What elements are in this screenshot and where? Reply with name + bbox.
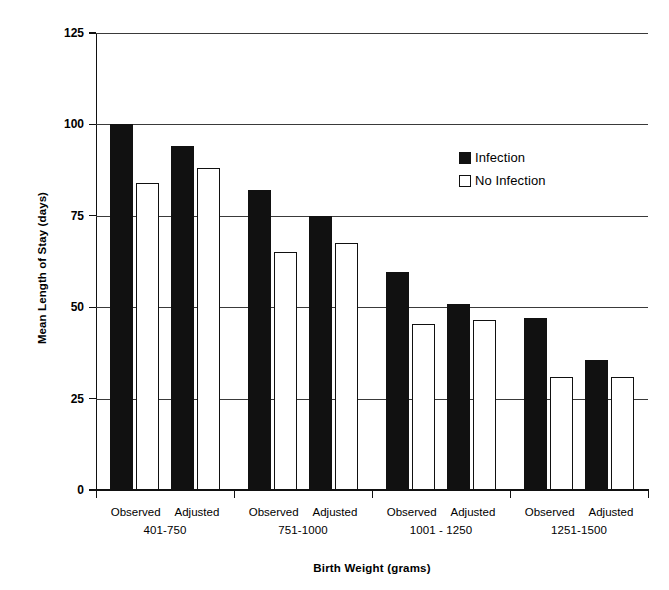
legend-label: No Infection	[475, 173, 546, 188]
legend-item-infection: Infection	[459, 146, 546, 169]
x-subcategory-label-adjusted: Adjusted	[313, 504, 358, 521]
legend: InfectionNo Infection	[459, 146, 546, 192]
x-group-tick-3	[510, 490, 511, 498]
bar-no-infection-adjusted-1251-1500	[611, 377, 634, 490]
bar-no-infection-observed-1001-1250	[412, 324, 435, 490]
bar-infection-observed-401-750	[110, 124, 133, 490]
x-subcategory-label-observed: Observed	[111, 504, 161, 521]
x-subcategory-label-adjusted: Adjusted	[451, 504, 496, 521]
x-group-tick-1	[234, 490, 235, 498]
x-group-tick-0	[96, 490, 97, 498]
bar-no-infection-observed-1251-1500	[550, 377, 573, 490]
bar-no-infection-observed-401-750	[136, 183, 159, 490]
bar-infection-adjusted-1251-1500	[585, 360, 608, 490]
x-group-label-1251-1500: ObservedAdjusted1251-1500	[510, 504, 648, 538]
x-subcategory-label-observed: Observed	[525, 504, 575, 521]
y-tick-label-75: 75	[40, 210, 84, 222]
bar-no-infection-adjusted-751-1000	[335, 243, 358, 490]
x-subcategory-label-observed: Observed	[249, 504, 299, 521]
y-tick-label-0: 0	[40, 484, 84, 496]
y-tick-mark-75	[89, 215, 96, 216]
filled-black-square-icon	[459, 152, 471, 164]
y-tick-mark-0	[89, 489, 96, 490]
bar-infection-adjusted-751-1000	[309, 216, 332, 490]
x-subcategory-label-adjusted: Adjusted	[175, 504, 220, 521]
bar-infection-observed-1251-1500	[524, 318, 547, 490]
x-group-label-401-750: ObservedAdjusted401-750	[96, 504, 234, 538]
bar-infection-observed-1001-1250	[386, 272, 409, 490]
y-tick-label-100: 100	[40, 118, 84, 130]
x-range-label: 1001 - 1250	[372, 522, 510, 539]
y-tick-label-25: 25	[40, 393, 84, 405]
bar-infection-adjusted-401-750	[171, 146, 194, 490]
y-tick-label-50: 50	[40, 301, 84, 313]
y-tick-mark-100	[89, 124, 96, 125]
y-tick-mark-125	[89, 32, 96, 33]
x-group-tick-2	[372, 490, 373, 498]
x-subcategory-label-adjusted: Adjusted	[589, 504, 634, 521]
y-tick-mark-50	[89, 307, 96, 308]
x-range-label: 1251-1500	[510, 522, 648, 539]
bar-infection-observed-751-1000	[248, 190, 271, 490]
bar-chart: Mean Length of Stay (days) Birth Weight …	[0, 0, 669, 590]
y-axis-title: Mean Length of Stay (days)	[36, 128, 48, 408]
y-tick-mark-25	[89, 398, 96, 399]
x-subcategory-label-observed: Observed	[387, 504, 437, 521]
y-tick-label-125: 125	[40, 27, 84, 39]
x-axis-title: Birth Weight (grams)	[96, 562, 648, 574]
legend-item-no-infection: No Infection	[459, 169, 546, 192]
bar-no-infection-adjusted-401-750	[197, 168, 220, 490]
x-range-label: 401-750	[96, 522, 234, 539]
legend-label: Infection	[475, 150, 525, 165]
bar-infection-adjusted-1001-1250	[447, 304, 470, 490]
open-white-square-icon	[459, 175, 471, 187]
bar-no-infection-observed-751-1000	[274, 252, 297, 490]
x-group-label-1001-1250: ObservedAdjusted1001 - 1250	[372, 504, 510, 538]
x-group-tick-4	[648, 490, 649, 498]
bar-no-infection-adjusted-1001-1250	[473, 320, 496, 490]
x-range-label: 751-1000	[234, 522, 372, 539]
x-group-label-751-1000: ObservedAdjusted751-1000	[234, 504, 372, 538]
plot-area	[96, 33, 648, 490]
